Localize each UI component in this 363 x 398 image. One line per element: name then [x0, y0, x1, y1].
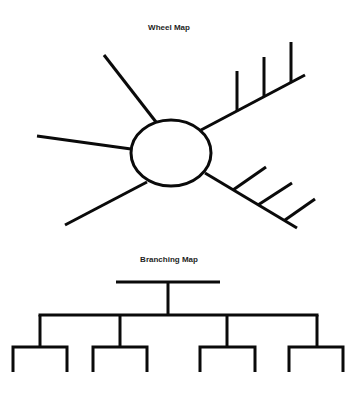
spoke-left: [37, 136, 131, 149]
sub-branch-lower-right-1: [233, 167, 266, 190]
leaf-group-4: [289, 347, 343, 372]
leaf-group-1: [13, 347, 67, 372]
center-node: [131, 120, 211, 186]
wheel-map: [37, 42, 315, 228]
spoke-upper-left: [104, 55, 156, 122]
spoke-lower-right: [205, 173, 297, 228]
diagram-canvas: [0, 0, 363, 398]
branching-map: [13, 282, 343, 372]
leaf-group-3: [200, 347, 255, 372]
sub-branch-lower-right-3: [285, 199, 315, 220]
sub-branch-lower-right-2: [258, 183, 292, 205]
spoke-upper-right: [201, 75, 305, 130]
spoke-lower-left: [65, 182, 147, 225]
leaf-group-2: [93, 347, 147, 372]
